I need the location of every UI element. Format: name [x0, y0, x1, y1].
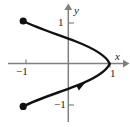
y-tick-label-one: 1	[58, 17, 64, 28]
y-axis-label: y	[74, 5, 79, 16]
x-axis-arrowhead	[123, 60, 130, 68]
graph-figure: y x 1 −1 −1 1	[0, 0, 130, 127]
y-axis-arrowhead	[64, 4, 72, 11]
y-axis	[64, 4, 74, 123]
endpoint-dot-upper	[20, 17, 27, 24]
endpoint-dot-lower	[20, 103, 27, 110]
x-tick-label-one: 1	[110, 68, 116, 79]
y-tick-label-minus-one: −1	[54, 99, 66, 110]
x-axis-label: x	[115, 51, 120, 62]
x-tick-label-minus-one: −1	[16, 66, 28, 77]
